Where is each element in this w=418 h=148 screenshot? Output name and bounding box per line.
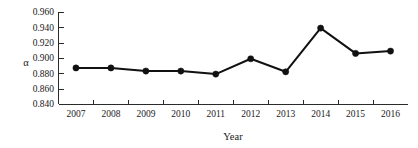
y-tick-label: 0.900 — [33, 53, 55, 63]
x-tick-label: 2012 — [241, 109, 260, 119]
x-tick-label: 2014 — [311, 109, 330, 119]
y-tick-label: 0.880 — [33, 69, 55, 79]
y-axis-title: α — [23, 57, 29, 68]
x-tick-label: 2008 — [101, 109, 120, 119]
data-point — [283, 69, 289, 75]
data-point — [387, 48, 393, 54]
x-tick-label: 2007 — [66, 109, 85, 119]
data-point — [108, 65, 114, 71]
data-point — [213, 71, 219, 77]
data-point — [248, 56, 254, 62]
data-point — [143, 68, 149, 74]
y-tick-label: 0.960 — [33, 7, 55, 17]
y-tick-label: 0.920 — [33, 38, 55, 48]
y-tick-label: 0.940 — [33, 23, 55, 33]
data-point — [352, 50, 358, 56]
x-tick-label: 2011 — [206, 109, 225, 119]
x-tick-label: 2009 — [136, 109, 155, 119]
x-tick-label: 2010 — [171, 109, 190, 119]
data-point — [73, 65, 79, 71]
x-tick-label: 2016 — [381, 109, 400, 119]
chart-figure: 0.8400.8600.8800.9000.9200.9400.960 2007… — [0, 0, 418, 148]
x-axis-title: Year — [223, 131, 243, 142]
x-tick-label: 2013 — [276, 109, 295, 119]
y-tick-label: 0.860 — [33, 84, 55, 94]
line-chart: 0.8400.8600.8800.9000.9200.9400.960 2007… — [0, 0, 418, 148]
data-point — [318, 25, 324, 31]
data-point — [178, 68, 184, 74]
x-tick-label: 2015 — [346, 109, 365, 119]
y-tick-label: 0.840 — [33, 99, 55, 109]
